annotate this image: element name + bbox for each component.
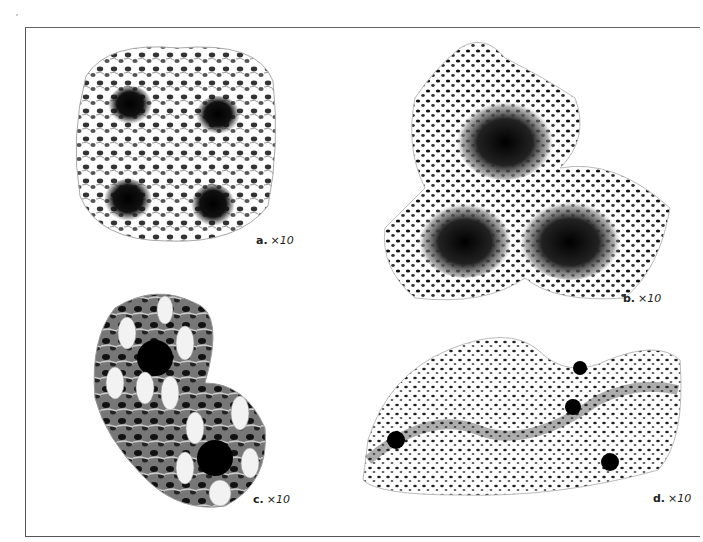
panel-d-illustration: [358, 330, 688, 500]
caption-d: d.×10: [653, 492, 691, 505]
panel-b-illustration: [375, 38, 675, 308]
coral-a-drawing: [68, 36, 283, 246]
coral-c-drawing: [85, 288, 275, 513]
stray-mark: [16, 14, 18, 16]
coral-b-drawing: [375, 38, 675, 308]
caption-c: c.×10: [253, 493, 290, 506]
panel-c-illustration: [85, 288, 275, 513]
coral-d-drawing: [358, 330, 688, 500]
panel-a-illustration: [68, 36, 283, 246]
caption-b: b.×10: [623, 292, 661, 305]
caption-a: a.×10: [256, 234, 294, 247]
